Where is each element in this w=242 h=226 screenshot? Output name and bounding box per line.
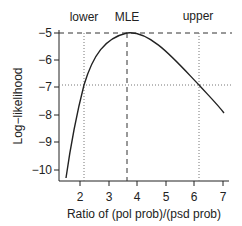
y-tick-label: −6 [38,53,52,67]
y-tick-label: −9 [38,135,52,149]
mle-label: MLE [115,10,140,24]
x-tick-label: 5 [163,190,170,204]
y-tick-label: −10 [32,163,53,177]
y-axis-title: Log−likelihood [11,67,25,144]
y-tick-labels: −5 −6 −7 −8 −9 −10 [32,26,53,177]
x-tick-labels: 2 3 4 5 6 7 [77,190,227,204]
likelihood-curve [66,33,224,178]
x-axis-title: Ratio of (pol prob)/(psd prob) [67,207,221,221]
upper-label: upper [183,9,214,23]
axes [54,30,229,186]
y-tick-label: −7 [38,80,52,94]
x-tick-label: 2 [77,190,84,204]
reference-lines [59,33,232,181]
y-tick-label: −8 [38,108,52,122]
x-tick-label: 3 [106,190,113,204]
y-tick-label: −5 [38,26,52,40]
x-tick-label: 7 [220,190,227,204]
lower-label: lower [70,10,99,24]
x-tick-label: 4 [134,190,141,204]
log-likelihood-chart: lower MLE upper −5 −6 −7 −8 −9 −10 2 3 4… [0,0,242,226]
x-tick-label: 6 [191,190,198,204]
